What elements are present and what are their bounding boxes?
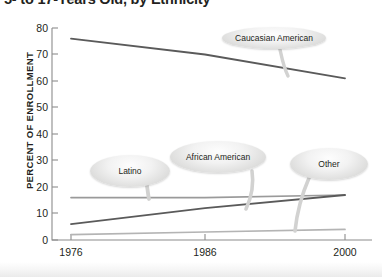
- series-line-african-american: [71, 195, 345, 224]
- callout-tail-caucasian-american: [279, 45, 288, 76]
- callout-other[interactable]: Other: [290, 148, 368, 180]
- callout-caucasian-american[interactable]: Caucasian American: [222, 27, 326, 49]
- chart-figure: 5- to 17-Years Old, by Ethnicity PERCENT…: [0, 0, 382, 277]
- callout-label-other: Other: [318, 159, 339, 169]
- y-axis-ticks: [52, 28, 58, 240]
- callout-african-american[interactable]: African American: [170, 141, 266, 173]
- x-axis-ticks: [71, 234, 345, 240]
- callout-label-caucasian-american: Caucasian American: [235, 33, 313, 43]
- callout-label-african-american: African American: [186, 152, 250, 162]
- series-line-other: [71, 229, 345, 234]
- callout-tail-other: [295, 178, 309, 231]
- page-bottom-fade: [0, 262, 382, 277]
- callout-latino[interactable]: Latino: [90, 155, 170, 187]
- plot-area: [0, 0, 382, 277]
- callout-label-latino: Latino: [118, 166, 141, 176]
- callout-tail-latino: [147, 186, 149, 199]
